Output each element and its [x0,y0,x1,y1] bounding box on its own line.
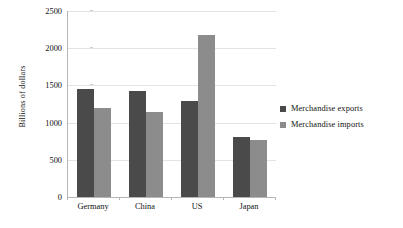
x-tick-label: Germany [77,202,108,211]
bar[interactable] [146,112,163,197]
plot-area [67,11,276,198]
x-tick-mark [223,197,224,200]
bar[interactable] [181,101,198,197]
x-tick-label: Japan [239,202,258,211]
bar[interactable] [129,91,146,197]
y-tick-label: 500 [26,155,62,164]
legend-entry[interactable]: Merchandise exports [280,104,400,113]
y-tick-label: 0 [26,193,62,202]
x-tick-mark [275,197,276,200]
x-tick-mark [171,197,172,200]
legend-swatch-icon [280,106,286,112]
x-tick-mark [119,197,120,200]
bar[interactable] [198,35,215,197]
bar-group [181,11,215,197]
y-tick-label: 1500 [26,81,62,90]
bar[interactable] [233,137,250,197]
legend-label: Merchandise imports [291,120,364,129]
legend-entry[interactable]: Merchandise imports [280,120,400,129]
bar-group [129,11,163,197]
x-axis-tick-labels: GermanyChinaUSJapan [67,202,275,222]
y-tick-label: 2500 [26,7,62,16]
y-tick-label: 2000 [26,44,62,53]
bar[interactable] [250,140,267,197]
bar-group [233,11,267,197]
legend-swatch-icon [280,122,286,128]
bar[interactable] [77,89,94,197]
chart-legend: Merchandise exportsMerchandise imports [280,104,400,136]
bar[interactable] [94,108,111,197]
legend-label: Merchandise exports [291,104,363,113]
bar-chart-figure: Billions of dollars 05001000150020002500… [0,0,403,228]
x-tick-mark [67,197,68,200]
y-tick-label: 1000 [26,118,62,127]
x-tick-label: China [135,202,155,211]
y-axis-tick-labels: 05001000150020002500 [26,0,62,228]
x-tick-label: US [192,202,203,211]
bars-layer [68,11,276,197]
bar-group [77,11,111,197]
